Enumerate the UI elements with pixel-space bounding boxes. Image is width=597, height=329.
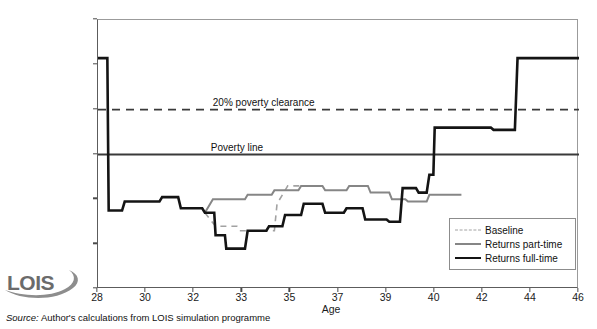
series-line-baseline: [205, 186, 301, 231]
x-tick-label-9: 44: [524, 291, 536, 303]
x-tick-label-2: 32: [187, 291, 199, 303]
annotation-poverty-clearance: 20% poverty clearance: [209, 96, 319, 107]
legend-item-returns-part-time: Returns part-time: [455, 237, 570, 251]
legend-swatch-part-time-icon: [455, 239, 481, 249]
legend-label-returns-full-time: Returns full-time: [485, 253, 558, 264]
chart-figure: % of AHC poverty line 160 140 120 100 80…: [0, 0, 597, 329]
legend-item-returns-full-time: Returns full-time: [455, 251, 570, 265]
source-text: Author's calculations from LOIS simulati…: [41, 312, 270, 323]
x-tick-label-6: 39: [380, 291, 392, 303]
chart-legend: Baseline Returns part-time Returns full-…: [449, 218, 576, 270]
series-line-returns-part-time: [205, 186, 462, 213]
chart-title-cropped: [0, 0, 597, 9]
lois-logo: LOIS: [3, 262, 91, 302]
logo-text: LOIS: [7, 271, 54, 295]
source-note: Source: Author's calculations from LOIS …: [6, 312, 270, 323]
x-tick-label-10: 46: [572, 291, 584, 303]
legend-label-returns-part-time: Returns part-time: [485, 239, 562, 250]
legend-swatch-baseline-icon: [455, 225, 481, 235]
legend-item-baseline: Baseline: [455, 223, 570, 237]
x-tick-label-8: 42: [476, 291, 488, 303]
x-tick-label-3: 33: [235, 291, 247, 303]
source-prefix: Source:: [6, 312, 39, 323]
legend-label-baseline: Baseline: [485, 225, 523, 236]
legend-swatch-full-time-icon: [455, 253, 481, 263]
x-tick-label-7: 40: [428, 291, 440, 303]
x-tick-label-5: 37: [332, 291, 344, 303]
annotation-poverty-line: Poverty line: [207, 141, 267, 152]
x-axis-label: Age: [322, 303, 341, 315]
x-tick-label-0: 28: [91, 291, 103, 303]
x-tick-label-4: 35: [284, 291, 296, 303]
x-tick-label-1: 30: [139, 291, 151, 303]
